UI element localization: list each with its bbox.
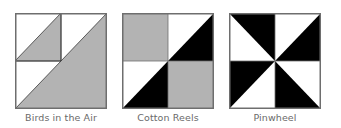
block-label-birds-in-the-air: Birds in the Air xyxy=(1,112,121,123)
block-label-pinwheel: Pinwheel xyxy=(215,112,335,123)
block-birds-in-the-air xyxy=(15,13,107,109)
birds-in-the-air-diagram xyxy=(15,13,107,109)
block-pinwheel xyxy=(229,13,321,109)
cotton-reels-diagram xyxy=(122,13,214,109)
block-label-cotton-reels: Cotton Reels xyxy=(108,112,228,123)
pinwheel-diagram xyxy=(229,13,321,109)
block-cotton-reels xyxy=(122,13,214,109)
